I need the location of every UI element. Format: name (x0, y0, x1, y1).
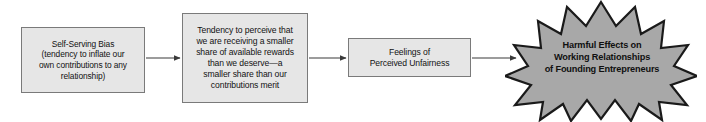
flowchart-diagram: Self-Serving Bias (tendency to inflate o… (0, 0, 706, 122)
node-perceived-unfairness-label: Feelings of Perceived Unfairness (367, 47, 453, 69)
node-harmful-effects: Harmful Effects on Working Relationships… (505, 0, 697, 122)
node-perceived-unfairness: Feelings of Perceived Unfairness (348, 38, 471, 77)
node-harmful-effects-label: Harmful Effects on Working Relationships… (531, 39, 673, 75)
node-tendency-to-perceive: Tendency to perceive that we are receivi… (182, 13, 308, 103)
node-self-serving-bias: Self-Serving Bias (tendency to inflate o… (21, 27, 145, 93)
node-self-serving-bias-label: Self-Serving Bias (tendency to inflate o… (36, 39, 130, 82)
node-tendency-to-perceive-label: Tendency to perceive that we are receivi… (193, 25, 297, 90)
